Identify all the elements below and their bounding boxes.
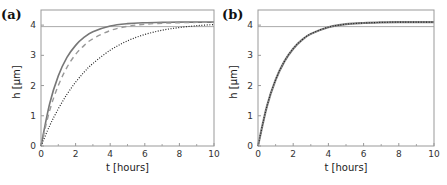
y-tick-label: 2 xyxy=(30,81,36,91)
panel-b-label: (b) xyxy=(222,7,243,22)
x-tick-label: 6 xyxy=(142,149,148,159)
y-tick-label: 4 xyxy=(30,20,36,30)
x-tick-label: 6 xyxy=(361,149,367,159)
panel-b-xlabel: t [hours] xyxy=(324,162,367,173)
y-tick-label: 0 xyxy=(30,141,36,151)
panel-a-ticks: 024681001234 xyxy=(30,20,220,159)
panel-b: (b) 024681001234 t [hours] h [µm] xyxy=(222,7,440,173)
x-tick-label: 10 xyxy=(428,149,440,159)
x-tick-label: 2 xyxy=(290,149,296,159)
y-tick-label: 4 xyxy=(247,20,253,30)
x-tick-label: 8 xyxy=(396,149,402,159)
panel-a-frame xyxy=(41,10,214,146)
y-tick-label: 2 xyxy=(247,81,253,91)
x-tick-label: 0 xyxy=(38,149,44,159)
x-tick-label: 0 xyxy=(255,149,261,159)
curve-dotted xyxy=(258,22,434,146)
panel-a: (a) 024681001234 t [hours] h [µm] xyxy=(1,7,220,173)
x-tick-label: 4 xyxy=(326,149,332,159)
y-tick-label: 3 xyxy=(247,50,253,60)
panel-a-ylabel: h [µm] xyxy=(11,65,22,99)
x-tick-label: 8 xyxy=(177,149,183,159)
panel-a-label: (a) xyxy=(1,7,22,22)
y-tick-label: 3 xyxy=(30,50,36,60)
panel-b-ticks: 024681001234 xyxy=(247,20,440,159)
y-tick-label: 1 xyxy=(30,111,36,121)
curve-solid xyxy=(41,22,214,146)
curve-dashed xyxy=(41,22,214,146)
x-tick-label: 10 xyxy=(208,149,220,159)
panel-b-ylabel: h [µm] xyxy=(228,65,239,99)
panel-b-frame xyxy=(258,10,434,146)
curve-solid xyxy=(258,22,434,146)
y-tick-label: 0 xyxy=(247,141,253,151)
x-tick-label: 2 xyxy=(73,149,79,159)
panel-a-curves xyxy=(41,22,214,146)
y-tick-label: 1 xyxy=(247,111,253,121)
panel-a-xlabel: t [hours] xyxy=(106,162,149,173)
x-tick-label: 4 xyxy=(107,149,113,159)
curve-dotted xyxy=(41,25,214,146)
figure: (a) 024681001234 t [hours] h [µm] (b) 02… xyxy=(0,0,447,185)
panel-b-curves xyxy=(258,22,434,146)
